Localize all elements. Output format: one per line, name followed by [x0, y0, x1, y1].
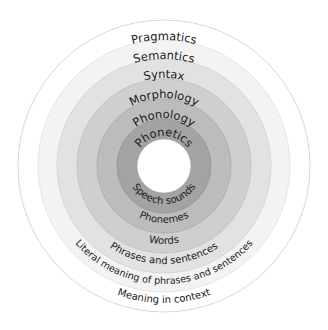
- concentric-language-levels-diagram: Pragmatics Semantics Syntax Morphology P…: [0, 0, 328, 330]
- label-syntax: Syntax: [142, 67, 186, 83]
- center-hole: [137, 139, 191, 193]
- description-morphology: Words: [148, 234, 179, 246]
